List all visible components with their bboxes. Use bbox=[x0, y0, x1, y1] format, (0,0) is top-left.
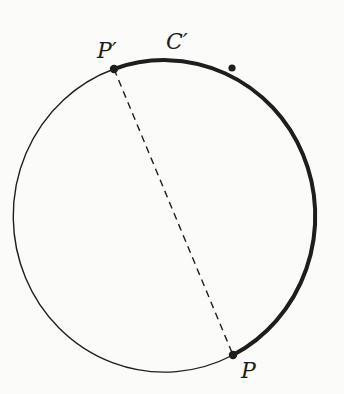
label-p-prime: P′ bbox=[97, 40, 117, 62]
point-p bbox=[229, 351, 237, 359]
label-c-prime: C′ bbox=[166, 31, 188, 53]
dashed-chord bbox=[114, 69, 233, 355]
diagram-canvas: P′ C′ P bbox=[0, 0, 344, 394]
thin-arc bbox=[13, 69, 233, 372]
circle-figure bbox=[0, 0, 344, 394]
thick-arc-c-prime bbox=[114, 60, 315, 355]
label-p: P bbox=[241, 360, 256, 382]
point-p-prime bbox=[110, 65, 118, 73]
point-middle bbox=[228, 64, 235, 71]
